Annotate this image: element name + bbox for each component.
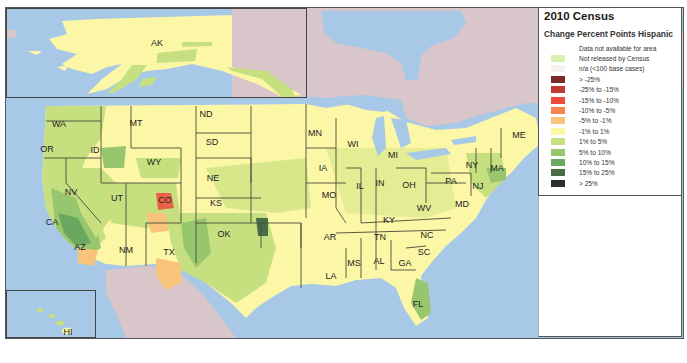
legend-swatch <box>551 149 565 156</box>
state-label-mo: MO <box>322 190 337 200</box>
legend-label: 15% to 25% <box>579 169 615 176</box>
legend-swatch <box>551 159 565 166</box>
state-label-ar: AR <box>324 232 337 242</box>
state-label-wi: WI <box>348 139 359 149</box>
state-label-md: MD <box>455 199 469 209</box>
state-label-la: LA <box>325 271 336 281</box>
state-label-nj: NJ <box>473 181 484 191</box>
legend-swatch <box>551 55 565 62</box>
legend-item: Not released by Census <box>551 53 656 63</box>
legend-swatch <box>551 76 565 83</box>
legend-panel: 2010 Census Change Percent Points Hispan… <box>538 7 682 196</box>
state-label-ak: AK <box>151 38 163 48</box>
state-label-ma: MA <box>490 163 504 173</box>
alaska-svg <box>7 9 306 97</box>
legend-item: -5% to -1% <box>551 116 656 126</box>
legend-swatch <box>551 138 565 145</box>
legend-item: > 25% <box>551 178 656 188</box>
legend-label: 10% to 15% <box>579 159 615 166</box>
state-label-fl: FL <box>413 299 424 309</box>
legend-item: -15% to -10% <box>551 95 656 105</box>
legend-swatch <box>551 169 565 176</box>
state-label-hi: HI <box>64 327 73 337</box>
legend-swatch <box>551 65 565 72</box>
legend-label: 5% to 10% <box>579 149 611 156</box>
legend-label: Data not available for area <box>579 45 656 52</box>
state-label-id: ID <box>91 145 100 155</box>
state-label-wv: WV <box>417 203 432 213</box>
alaska-inset[interactable]: AK <box>6 8 307 98</box>
legend-swatch <box>551 107 565 114</box>
legend-item: Data not available for area <box>551 43 656 53</box>
legend-label: -5% to -1% <box>579 117 612 124</box>
state-label-sc: SC <box>418 247 431 257</box>
legend-item: 15% to 25% <box>551 168 656 178</box>
legend-swatch <box>551 45 565 52</box>
legend-swatch <box>551 117 565 124</box>
legend-label: 1% to 5% <box>579 138 607 145</box>
legend-item: -25% to -15% <box>551 85 656 95</box>
state-label-mn: MN <box>308 128 322 138</box>
state-label-nd: ND <box>200 109 213 119</box>
state-label-mt: MT <box>130 118 143 128</box>
state-label-nv: NV <box>65 187 78 197</box>
legend-item: 1% to 5% <box>551 137 656 147</box>
state-label-wa: WA <box>52 119 66 129</box>
state-label-il: IL <box>356 181 364 191</box>
legend-label: > 25% <box>579 180 598 187</box>
legend-swatch <box>551 86 565 93</box>
legend-label: > -25% <box>579 76 600 83</box>
state-label-or: OR <box>40 144 54 154</box>
state-label-al: AL <box>373 256 384 266</box>
legend-item: -1% to 1% <box>551 126 656 136</box>
state-label-ia: IA <box>319 163 328 173</box>
state-label-ms: MS <box>347 258 361 268</box>
legend-swatch <box>551 128 565 135</box>
state-label-nc: NC <box>421 230 434 240</box>
state-label-ca: CA <box>46 217 59 227</box>
state-label-tx: TX <box>163 247 175 257</box>
legend-item: 5% to 10% <box>551 147 656 157</box>
legend-item: -10% to -5% <box>551 105 656 115</box>
legend-label: -10% to -5% <box>579 107 615 114</box>
state-label-ne: NE <box>207 173 220 183</box>
legend-item: 10% to 15% <box>551 157 656 167</box>
state-label-nm: NM <box>119 245 133 255</box>
state-label-az: AZ <box>74 242 86 252</box>
legend-item: > -25% <box>551 74 656 84</box>
blank-panel <box>538 196 682 337</box>
legend-label: -1% to 1% <box>579 128 609 135</box>
state-label-me: ME <box>512 130 526 140</box>
state-label-mi: MI <box>388 150 398 160</box>
legend-item: n/a (<100 base cases) <box>551 64 656 74</box>
legend-swatch <box>551 97 565 104</box>
state-label-ny: NY <box>466 160 479 170</box>
state-label-oh: OH <box>402 180 416 190</box>
hawaii-svg <box>7 291 95 337</box>
legend-label: Not released by Census <box>579 55 649 62</box>
state-label-ks: KS <box>210 198 222 208</box>
state-label-ga: GA <box>398 258 411 268</box>
state-label-wy: WY <box>147 157 162 167</box>
legend-label: -25% to -15% <box>579 86 619 93</box>
state-label-ky: KY <box>383 215 395 225</box>
state-label-pa: PA <box>445 176 456 186</box>
legend-label: -15% to -10% <box>579 97 619 104</box>
legend-subtitle: Change Percent Points Hispanic <box>544 29 673 39</box>
state-label-sd: SD <box>206 137 219 147</box>
state-label-tn: TN <box>374 232 386 242</box>
hawaii-inset[interactable]: HI <box>6 290 96 338</box>
legend-title: 2010 Census <box>544 10 614 22</box>
state-label-ok: OK <box>217 229 230 239</box>
state-label-ut: UT <box>111 193 123 203</box>
legend-swatch <box>551 180 565 187</box>
state-label-in: IN <box>376 178 385 188</box>
legend-label: n/a (<100 base cases) <box>579 65 644 72</box>
legend-list: Data not available for area Not released… <box>551 43 656 188</box>
state-label-co: CO <box>158 195 172 205</box>
